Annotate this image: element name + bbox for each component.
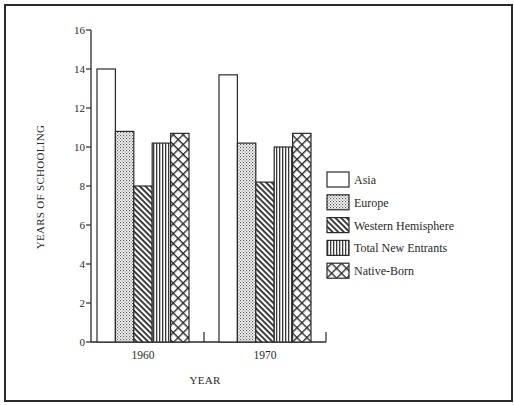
y-tick-label: 6 (80, 219, 86, 231)
y-tick-label: 4 (80, 258, 86, 270)
x-category-label: 1970 (254, 349, 277, 361)
bar-group-1970: 1970 (219, 75, 311, 361)
x-category-label: 1960 (132, 349, 155, 361)
legend-label: Europe (354, 196, 389, 210)
legend-label: Western Hemisphere (354, 219, 454, 233)
bar-asia-1970 (219, 75, 237, 342)
legend-label: Asia (354, 173, 377, 187)
y-tick-label: 16 (74, 24, 86, 36)
legend-item: Europe (327, 195, 389, 210)
y-tick-label: 2 (80, 297, 86, 309)
bar-groups: 19601970 (97, 69, 311, 361)
bar-native-born-1970 (293, 133, 311, 342)
legend-swatch-vertical (327, 240, 349, 255)
bar-asia-1960 (97, 69, 115, 342)
legend-item: Asia (327, 172, 377, 187)
bar-group-1960: 1960 (97, 69, 189, 361)
y-axis-title: YEARS OF SCHOOLING (34, 125, 46, 250)
chart-container: 0246810121416 19601970 AsiaEuropeWestern… (0, 0, 514, 405)
y-tick-label: 8 (80, 180, 86, 192)
bar-total-new-entrants-1970 (274, 147, 292, 342)
y-tick-label: 10 (74, 141, 86, 153)
legend-swatch-dots (327, 195, 349, 210)
legend-item: Total New Entrants (327, 240, 447, 255)
bar-europe-1960 (115, 131, 133, 342)
legend-label: Total New Entrants (354, 241, 447, 255)
x-axis-title: YEAR (189, 374, 221, 386)
legend: AsiaEuropeWestern HemisphereTotal New En… (327, 172, 454, 278)
bar-europe-1970 (237, 143, 255, 342)
bar-chart: 0246810121416 19601970 AsiaEuropeWestern… (0, 0, 514, 405)
y-tick-label: 0 (80, 336, 86, 348)
bar-western-hemisphere-1970 (256, 182, 274, 342)
bar-total-new-entrants-1960 (152, 143, 170, 342)
y-tick-label: 14 (74, 63, 86, 75)
legend-label: Native-Born (354, 264, 414, 278)
legend-item: Native-Born (327, 263, 414, 278)
legend-item: Western Hemisphere (327, 218, 454, 233)
y-tick-label: 12 (74, 102, 85, 114)
legend-swatch-crosshatch (327, 263, 349, 278)
y-axis: 0246810121416 (74, 24, 91, 348)
bar-western-hemisphere-1960 (134, 186, 152, 342)
legend-swatch-blank (327, 172, 349, 187)
legend-swatch-diagonal (327, 218, 349, 233)
bar-native-born-1960 (171, 133, 189, 342)
